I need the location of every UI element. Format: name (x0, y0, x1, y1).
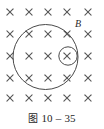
field-cross-icon (7, 53, 13, 59)
field-cross-icon (45, 9, 51, 15)
field-cross-icon (26, 9, 32, 15)
field-cross-icon (26, 75, 32, 81)
field-cross-icon (64, 53, 70, 59)
caption-prefix-label: 图 (28, 110, 38, 125)
magnetic-field-diagram: B (0, 0, 104, 106)
magnetic-field-label-B: B (75, 18, 81, 29)
field-cross-icon (85, 53, 91, 59)
field-cross-icon (7, 9, 13, 15)
field-cross-icon (85, 31, 91, 37)
figure-caption: 图 10 – 35 (0, 106, 104, 129)
field-cross-icon (45, 75, 51, 81)
field-cross-icon (64, 95, 70, 101)
figure-container: B 图 10 – 35 (0, 0, 104, 129)
caption-figure-number: 10 – 35 (41, 112, 75, 124)
field-cross-icon (64, 75, 70, 81)
field-cross-icon (7, 31, 13, 37)
field-cross-icon (26, 31, 32, 37)
field-cross-icon (26, 53, 32, 59)
field-cross-icon (64, 31, 70, 37)
field-cross-icon (85, 9, 91, 15)
field-cross-icon (26, 95, 32, 101)
field-cross-icon (45, 53, 51, 59)
field-cross-icon (85, 95, 91, 101)
field-cross-icon (45, 31, 51, 37)
diagram-canvas: B (0, 0, 104, 106)
small-conducting-loop-circle (59, 47, 77, 65)
field-cross-icon (45, 95, 51, 101)
field-cross-icon (85, 75, 91, 81)
field-cross-icon (7, 75, 13, 81)
field-cross-icon (7, 95, 13, 101)
field-cross-icon (64, 9, 70, 15)
